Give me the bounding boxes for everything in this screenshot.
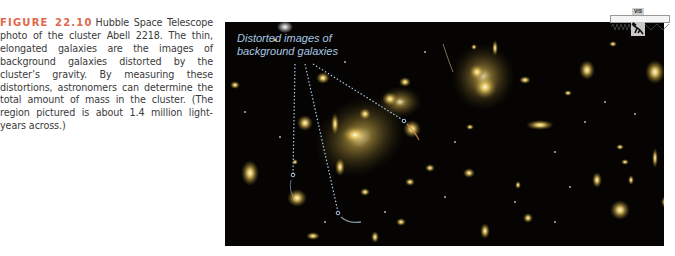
hubble-photo-abell-2218: Distorted images of background galaxies bbox=[225, 22, 664, 246]
telescope-icon bbox=[631, 22, 645, 36]
figure-caption: FIGURE 22.10Hubble Space Telescope photo… bbox=[0, 17, 213, 133]
annotation-line-1: Distorted images of bbox=[237, 32, 338, 45]
caption-text: Hubble Space Telescope photo of the clus… bbox=[0, 17, 213, 131]
spectrum-band-indicator: VIS bbox=[610, 8, 668, 36]
vis-band-label: VIS bbox=[632, 8, 644, 15]
figure-label: FIGURE 22.10 bbox=[0, 17, 93, 28]
annotation-label: Distorted images of background galaxies bbox=[237, 32, 338, 58]
annotation-line-2: background galaxies bbox=[237, 45, 338, 58]
